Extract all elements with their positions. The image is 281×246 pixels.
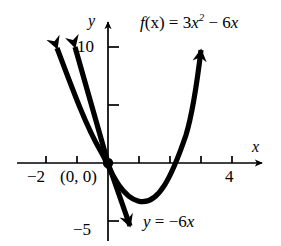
fn-var1: x [191, 13, 199, 32]
x-axis [17, 156, 262, 163]
line-y-equals-minus-6x [75, 47, 130, 226]
x-tick-label-minus-2: −2 [27, 168, 45, 185]
origin-point-marker [103, 158, 113, 168]
y-tick-label-minus-5: −5 [73, 221, 91, 238]
y-axis [108, 22, 119, 241]
fn-tail: − 6 [204, 13, 231, 32]
line-equation-label: y = −6x [143, 213, 194, 230]
graph-figure: f(x) = 3x2 − 6x y = −6x y x 10 −5 −2 4 (… [0, 0, 281, 246]
fn-var2: x [231, 13, 239, 32]
x-axis-label: x [252, 139, 259, 155]
origin-point-label: (0, 0) [60, 168, 97, 185]
x-axis-ticks [46, 156, 232, 163]
y-tick-label-10: 10 [77, 38, 94, 55]
line-var: y [143, 212, 151, 231]
coordinate-plot [0, 0, 281, 246]
y-axis-label: y [88, 13, 95, 29]
parabola-equation-label: f(x) = 3x2 − 6x [140, 12, 238, 31]
fn-arg: (x) [145, 13, 165, 32]
fn-equals: = 3 [165, 13, 192, 32]
line-rest: = −6 [151, 212, 187, 231]
line-var2: x [187, 212, 195, 231]
x-tick-label-4: 4 [225, 168, 234, 185]
